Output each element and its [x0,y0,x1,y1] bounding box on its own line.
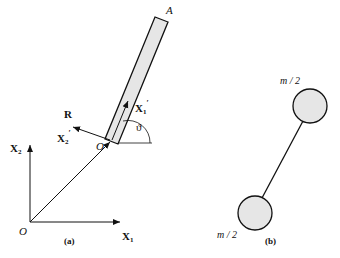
label-x2: X2 [10,142,22,156]
top-mass [293,89,327,123]
label-x1: X1 [122,230,134,244]
bottom-mass [238,196,272,230]
label-body-origin: O [96,140,104,152]
label-x2-prime: X2′ [57,129,71,146]
label-top-mass: m / 2 [280,75,300,86]
x2-prime-axis [73,127,110,140]
panel-b: m / 2 m / 2 (b) [217,75,327,246]
label-x1-prime: X1′ [135,99,149,116]
caption-b: (b) [265,236,276,246]
connecting-rod [262,121,303,198]
label-bottom-mass: m / 2 [217,229,237,240]
diagram-canvas: A O O R ϑ X1 X2 X1′ X2′ (a) m / 2 m / 2 … [0,0,340,258]
label-r: R [64,108,73,120]
panel-a: A O O R ϑ X1 X2 X1′ X2′ (a) [10,4,173,246]
label-a: A [165,4,173,16]
r-vector [30,142,110,222]
figure: A O O R ϑ X1 X2 X1′ X2′ (a) m / 2 m / 2 … [0,0,340,258]
label-origin: O [19,225,27,237]
label-theta: ϑ [136,121,142,133]
caption-a: (a) [64,236,75,246]
